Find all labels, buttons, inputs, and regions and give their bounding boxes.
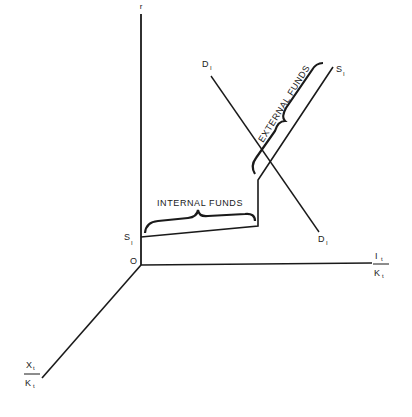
internal-funds-brace <box>145 210 255 233</box>
supply-label-end: S I <box>336 64 345 77</box>
demand-label-end: D I <box>318 234 328 246</box>
internal-funds-label: INTERNAL FUNDS <box>157 198 243 208</box>
svg-text:I: I <box>375 251 378 261</box>
svg-text:D: D <box>202 59 209 69</box>
svg-text:K: K <box>374 268 380 278</box>
svg-text:t: t <box>381 256 383 262</box>
svg-text:t: t <box>33 365 35 371</box>
depth-axis-label: X t K t <box>24 360 40 389</box>
vertical-axis-label: r <box>140 2 143 11</box>
svg-text:I: I <box>210 65 212 71</box>
supply-label-start: S I <box>124 232 133 246</box>
svg-text:I: I <box>326 240 328 246</box>
svg-text:D: D <box>318 234 325 244</box>
svg-text:I: I <box>131 240 133 246</box>
svg-text:X: X <box>26 360 32 370</box>
horizontal-axis-label: I t K t <box>373 251 389 279</box>
svg-text:t: t <box>382 273 384 279</box>
svg-text:t: t <box>33 383 35 389</box>
svg-text:I: I <box>343 71 345 77</box>
svg-text:S: S <box>124 232 130 242</box>
svg-text:S: S <box>336 64 342 74</box>
horizontal-axis <box>141 263 372 265</box>
demand-label-start: D I <box>202 59 212 71</box>
investment-funds-diagram: r I t K t X t K t O S I S I D I D I INTE… <box>0 0 412 417</box>
origin-label: O <box>130 256 137 266</box>
depth-axis <box>42 265 141 378</box>
external-funds-label: EXTERNAL FUNDS <box>256 63 312 144</box>
external-funds-brace <box>253 63 323 174</box>
svg-text:K: K <box>25 378 31 388</box>
demand-curve <box>211 76 319 232</box>
